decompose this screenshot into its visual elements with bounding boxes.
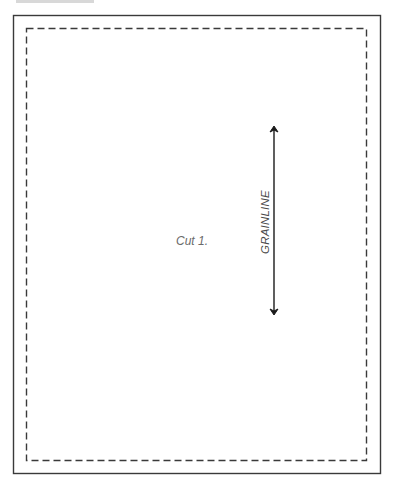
grainline-label: GRAINLINE <box>259 190 271 254</box>
clipped-header-remnant <box>16 0 94 3</box>
cut-instruction-label: Cut 1. <box>176 234 208 248</box>
grainline-arrow-icon <box>270 126 278 315</box>
